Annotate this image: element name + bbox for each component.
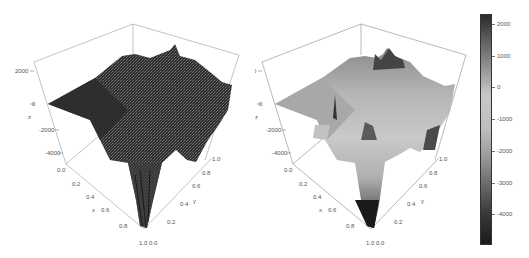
y-tick-label: 0.4 xyxy=(180,201,189,207)
colorbar-tick: 0 xyxy=(492,83,529,91)
surface-plot-mesh: 2000 0 -2000 -4000 z 0.0 0.2 0.4 0.6 0.8… xyxy=(0,0,262,258)
y-axis-label: y xyxy=(193,198,196,204)
x-tick-label: 0.4 xyxy=(313,194,322,200)
y-tick-label: 0.0 xyxy=(376,240,385,246)
x-tick-label: 0.2 xyxy=(299,181,308,187)
z-axis-label: z xyxy=(255,114,258,120)
grayscale-surface xyxy=(275,48,455,228)
colorbar-tick: -3000 xyxy=(492,179,529,187)
x-axis-label: x xyxy=(92,207,95,213)
y-tick-label: 1.0 xyxy=(212,156,221,162)
colorbar-tick: 2000 xyxy=(492,20,529,28)
z-tick-label: -4000 xyxy=(45,150,61,156)
z-tick-label: 2000 xyxy=(15,68,29,74)
x-axis-label: x xyxy=(319,207,322,213)
y-tick-label: 0.8 xyxy=(202,170,211,176)
y-tick-label: 0.2 xyxy=(167,219,176,225)
y-tick-label: 0.4 xyxy=(407,201,416,207)
x-tick-label: 1.0 xyxy=(366,240,375,246)
surface-plot-grayscale-canvas: 2000 0 -2000 -4000 z 0.0 0.2 0.4 0.6 0.8… xyxy=(255,0,470,258)
x-tick-label: 0.4 xyxy=(86,194,95,200)
x-tick-label: 0.0 xyxy=(57,167,66,173)
z-tick-label: 2000 xyxy=(255,68,257,74)
z-tick-label: -2000 xyxy=(39,127,55,133)
y-tick-label: 0.6 xyxy=(419,183,428,189)
z-tick-label: 0 xyxy=(259,101,263,107)
z-tick-label: -2000 xyxy=(266,127,282,133)
x-tick-label: 0.2 xyxy=(72,181,81,187)
z-axis xyxy=(30,71,63,153)
colorbar xyxy=(480,14,492,245)
x-tick-label: 1.0 xyxy=(139,240,148,246)
y-tick-label: 0.6 xyxy=(192,183,201,189)
colorbar-tick: -1000 xyxy=(492,115,529,123)
y-tick-label: 0.8 xyxy=(429,170,438,176)
z-axis-label: z xyxy=(28,114,31,120)
colorbar-tick: -2000 xyxy=(492,147,529,155)
surface-plot-grayscale: 2000 0 -2000 -4000 z 0.0 0.2 0.4 0.6 0.8… xyxy=(255,0,470,258)
x-tick-label: 0.0 xyxy=(284,167,293,173)
x-tick-label: 0.6 xyxy=(328,207,337,213)
mesh-surface xyxy=(48,44,232,228)
y-tick-label: 1.0 xyxy=(439,156,448,162)
y-tick-label: 0.0 xyxy=(149,240,158,246)
z-tick-label: 0 xyxy=(32,101,36,107)
colorbar-tick: -4000 xyxy=(492,210,529,218)
x-tick-label: 0.8 xyxy=(346,223,355,229)
x-tick-label: 0.8 xyxy=(119,223,128,229)
y-axis-label: y xyxy=(421,198,424,204)
y-tick-label: 0.2 xyxy=(394,219,403,225)
z-tick-label: -4000 xyxy=(272,150,288,156)
x-tick-label: 0.6 xyxy=(101,207,110,213)
surface-plot-mesh-canvas: 2000 0 -2000 -4000 z 0.0 0.2 0.4 0.6 0.8… xyxy=(0,0,262,258)
colorbar-tick: 1000 xyxy=(492,52,529,60)
